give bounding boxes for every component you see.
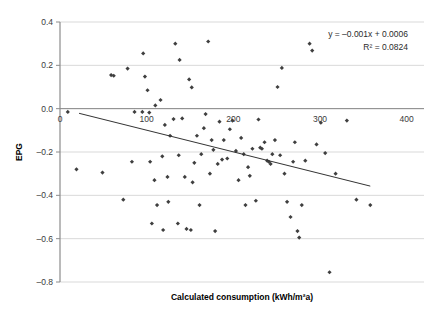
- data-point: [208, 172, 212, 176]
- data-point: [220, 157, 224, 161]
- data-point: [228, 127, 232, 131]
- y-tick-label-2: 0.0: [41, 104, 53, 114]
- data-point: [195, 134, 199, 138]
- data-point: [126, 66, 130, 70]
- data-point: [184, 227, 188, 231]
- data-point: [354, 198, 358, 202]
- data-point: [180, 116, 184, 120]
- data-point: [176, 221, 180, 225]
- data-point: [66, 110, 70, 114]
- data-point: [150, 221, 154, 225]
- x-tick-label-2: 200: [226, 114, 240, 124]
- data-point: [280, 66, 284, 70]
- data-point: [273, 138, 277, 142]
- data-point: [246, 165, 250, 169]
- data-point: [143, 75, 147, 79]
- data-point: [163, 123, 167, 127]
- data-point: [166, 200, 170, 204]
- data-point: [148, 160, 152, 164]
- data-point: [100, 170, 104, 174]
- data-point: [158, 98, 162, 102]
- trendline-r2-label: R² = 0.0824: [363, 42, 408, 52]
- data-point: [275, 85, 279, 89]
- data-point: [189, 228, 193, 232]
- data-point: [222, 138, 226, 142]
- y-tick-label-0: 0.4: [41, 17, 53, 27]
- x-axis-title: Calculated consumption (kWh/m²a): [171, 292, 313, 302]
- data-point: [141, 51, 145, 55]
- data-point: [191, 180, 195, 184]
- data-point: [308, 42, 312, 46]
- data-point: [210, 138, 214, 142]
- figure-container: 0.40.20.0–0.2–0.4–0.6–0.80100200300400y …: [0, 0, 444, 320]
- data-point: [250, 147, 254, 151]
- data-point: [211, 148, 215, 152]
- data-point: [183, 175, 187, 179]
- data-point: [165, 175, 169, 179]
- data-point: [236, 178, 240, 182]
- data-point: [177, 153, 181, 157]
- data-point: [161, 228, 165, 232]
- data-point: [300, 203, 304, 207]
- data-point: [334, 172, 338, 176]
- x-tick-label-1: 100: [140, 114, 154, 124]
- trendline-equation-label: y = –0.001x + 0.0006: [328, 29, 408, 39]
- data-point: [225, 156, 229, 160]
- data-point: [282, 172, 286, 176]
- data-point: [130, 160, 134, 164]
- data-point: [173, 42, 177, 46]
- data-point: [314, 142, 318, 146]
- data-point: [152, 178, 156, 182]
- data-point: [295, 229, 299, 233]
- data-point: [74, 167, 78, 171]
- y-tick-label-5: –0.6: [36, 234, 53, 244]
- data-point: [217, 120, 221, 124]
- scatter-chart: 0.40.20.0–0.2–0.4–0.6–0.80100200300400y …: [0, 0, 444, 320]
- data-point: [303, 159, 307, 163]
- data-point: [160, 154, 164, 158]
- trendline: [79, 113, 370, 186]
- data-point: [216, 162, 220, 166]
- data-point: [121, 198, 125, 202]
- data-point: [368, 203, 372, 207]
- y-tick-label-3: –0.2: [36, 147, 53, 157]
- data-point: [262, 140, 266, 144]
- data-point: [239, 136, 243, 140]
- y-tick-label-6: –0.8: [36, 277, 53, 287]
- data-point: [288, 215, 292, 219]
- data-point: [197, 203, 201, 207]
- data-point: [213, 229, 217, 233]
- data-point: [178, 58, 182, 62]
- data-point: [206, 39, 210, 43]
- data-point: [345, 118, 349, 122]
- data-point: [293, 140, 297, 144]
- y-tick-label-1: 0.2: [41, 60, 53, 70]
- data-point: [254, 199, 258, 203]
- data-point: [278, 153, 282, 157]
- data-point: [171, 117, 175, 121]
- data-point: [327, 270, 331, 274]
- x-tick-label-4: 400: [400, 114, 414, 124]
- data-point: [310, 49, 314, 53]
- data-point: [270, 152, 274, 156]
- data-point: [285, 200, 289, 204]
- data-point: [256, 117, 260, 121]
- data-point: [243, 203, 247, 207]
- data-point: [187, 77, 191, 81]
- data-point: [291, 160, 295, 164]
- x-tick-label-0: 0: [58, 114, 63, 124]
- data-point: [153, 103, 157, 107]
- data-point: [132, 110, 136, 114]
- data-point: [204, 112, 208, 116]
- data-point: [202, 126, 206, 130]
- data-point: [248, 174, 252, 178]
- data-point: [155, 203, 159, 207]
- data-point: [145, 88, 149, 92]
- data-point: [199, 152, 203, 156]
- y-axis-title: EPG: [14, 143, 24, 161]
- data-point: [190, 85, 194, 89]
- y-tick-label-4: –0.4: [36, 190, 53, 200]
- data-point: [192, 161, 196, 165]
